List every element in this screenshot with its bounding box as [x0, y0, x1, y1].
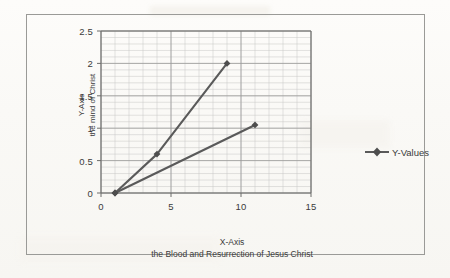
x-axis-title-line2: the Blood and Resurrection of Jesus Chri… [87, 248, 377, 260]
x-tick-label: 15 [299, 201, 323, 212]
x-tick-label: 0 [89, 201, 113, 212]
legend-series-label: Y-Values [392, 147, 429, 158]
y-tick-label: 2 [63, 58, 93, 69]
x-axis-title-line1: X-Axis [87, 236, 377, 248]
minor-gridlines [101, 31, 311, 193]
x-tick-label: 5 [159, 201, 183, 212]
chart-frame: 2.5 2 1.5 1 0.5 0 0 5 10 15 Y-Axis the m… [26, 14, 425, 255]
y-tick-label: 0.5 [63, 156, 93, 167]
y-axis-title: Y-Axis the mind of Christ [77, 70, 107, 140]
x-axis-title: X-Axis the Blood and Resurrection of Jes… [87, 236, 377, 260]
chart-legend[interactable]: Y-Values [364, 146, 429, 158]
major-gridlines [101, 31, 311, 193]
y-axis-title-line2: the mind of Christ [88, 70, 99, 140]
y-tick-label: 0 [63, 188, 93, 199]
y-axis-title-line1: Y-Axis [77, 70, 88, 140]
legend-marker-icon [364, 146, 390, 158]
x-tick-label: 10 [229, 201, 253, 212]
axis-lines [101, 31, 311, 193]
y-tick-label: 2.5 [63, 26, 93, 37]
